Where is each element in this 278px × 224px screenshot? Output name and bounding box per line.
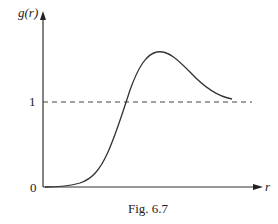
- x-axis-arrow-icon: [253, 184, 263, 190]
- g-r-curve: [45, 52, 232, 187]
- y-axis-arrow-icon: [40, 11, 46, 20]
- figure-caption: Fig. 6.7: [128, 202, 168, 215]
- chart-canvas: [0, 0, 278, 224]
- x-axis-label: r: [265, 180, 270, 193]
- y-tick-one: 1: [29, 95, 36, 108]
- y-tick-zero: 0: [30, 181, 37, 194]
- y-axis-label: g(r): [18, 6, 38, 19]
